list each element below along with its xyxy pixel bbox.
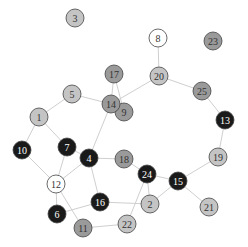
network-graph: 1234567891011121314151617181920212223242… — [0, 0, 248, 247]
node-2: 2 — [141, 195, 159, 213]
node-4: 4 — [80, 149, 98, 167]
node-21: 21 — [200, 198, 218, 216]
node-12: 12 — [47, 175, 65, 193]
node-label: 9 — [122, 107, 127, 118]
node-label: 11 — [78, 223, 88, 234]
node-8: 8 — [149, 29, 167, 47]
node-14: 14 — [102, 95, 120, 113]
node-label: 25 — [197, 86, 207, 97]
node-label: 8 — [156, 33, 161, 44]
node-22: 22 — [118, 215, 136, 233]
node-label: 19 — [213, 152, 223, 163]
node-1: 1 — [30, 108, 48, 126]
node-18: 18 — [115, 150, 133, 168]
node-label: 15 — [173, 176, 183, 187]
node-label: 4 — [87, 153, 92, 164]
node-3: 3 — [66, 9, 84, 27]
node-11: 11 — [74, 219, 92, 237]
node-25: 25 — [193, 82, 211, 100]
node-label: 3 — [73, 13, 78, 24]
node-label: 17 — [109, 69, 119, 80]
node-24: 24 — [138, 165, 156, 183]
node-5: 5 — [63, 85, 81, 103]
node-label: 10 — [17, 145, 27, 156]
node-13: 13 — [216, 111, 234, 129]
node-label: 14 — [106, 99, 116, 110]
node-17: 17 — [105, 65, 123, 83]
node-label: 20 — [154, 71, 164, 82]
node-label: 16 — [95, 197, 105, 208]
node-label: 7 — [65, 142, 70, 153]
node-label: 12 — [51, 179, 61, 190]
node-label: 23 — [208, 36, 218, 47]
edge-layer — [22, 38, 225, 228]
node-label: 5 — [70, 89, 75, 100]
node-label: 6 — [55, 209, 60, 220]
node-23: 23 — [204, 32, 222, 50]
node-label: 1 — [37, 112, 42, 123]
node-16: 16 — [91, 193, 109, 211]
node-20: 20 — [150, 67, 168, 85]
node-label: 24 — [142, 169, 152, 180]
node-label: 2 — [148, 199, 153, 210]
node-7: 7 — [58, 138, 76, 156]
node-6: 6 — [48, 205, 66, 223]
node-label: 21 — [204, 202, 214, 213]
node-10: 10 — [13, 141, 31, 159]
node-label: 18 — [119, 154, 129, 165]
node-19: 19 — [209, 148, 227, 166]
node-label: 13 — [220, 115, 230, 126]
node-label: 22 — [122, 219, 132, 230]
node-15: 15 — [169, 172, 187, 190]
